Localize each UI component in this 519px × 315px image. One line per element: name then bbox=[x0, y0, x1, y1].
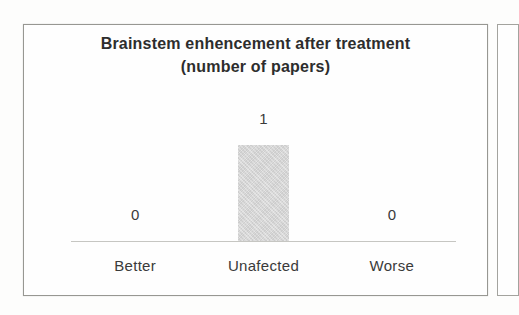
value-label-unafected: 1 bbox=[244, 110, 284, 127]
value-label-worse: 0 bbox=[372, 206, 412, 223]
chart-title: Brainstem enhencement after treatment (n… bbox=[24, 32, 487, 78]
chart-title-line1: Brainstem enhencement after treatment bbox=[24, 32, 487, 55]
bar-chart: Brainstem enhencement after treatment (n… bbox=[23, 24, 488, 296]
bar-unafected bbox=[238, 145, 289, 241]
value-label-better: 0 bbox=[115, 206, 155, 223]
x-axis-line bbox=[71, 241, 456, 242]
category-label-worse: Worse bbox=[332, 257, 452, 274]
category-label-unafected: Unafected bbox=[204, 257, 324, 274]
chart-title-line2: (number of papers) bbox=[24, 55, 487, 78]
adjacent-chart-edge bbox=[497, 24, 519, 296]
category-label-better: Better bbox=[75, 257, 195, 274]
